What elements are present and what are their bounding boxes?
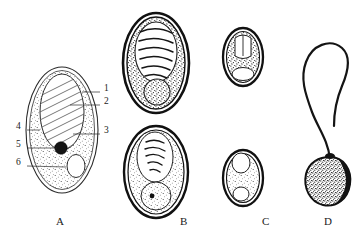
panel-c-ovum-upper (223, 28, 263, 86)
specimen-plate (0, 0, 361, 242)
leader-number-6: 6 (16, 157, 21, 167)
flagellum (303, 43, 348, 159)
panel-c-ovum-lower (223, 150, 263, 206)
panel-letter-d: D (324, 215, 332, 227)
panel-letter-c: C (262, 215, 270, 227)
panel-b-ovum-lower (124, 126, 188, 218)
leader-number-1: 1 (104, 83, 109, 93)
leader-number-2: 2 (104, 96, 109, 106)
panel-c-drawing (223, 28, 263, 206)
leader-number-5: 5 (16, 139, 21, 149)
leader-number-3: 3 (104, 125, 109, 135)
panel-b-drawing (123, 13, 189, 218)
panel-b-ovum-upper (123, 13, 189, 113)
ovum-clear-vacuole (67, 155, 85, 178)
panel-d-body (305, 153, 350, 206)
panel-d-drawing (303, 43, 350, 205)
leader-number-4: 4 (16, 121, 21, 131)
panel-letter-a: A (56, 215, 64, 227)
panel-letter-b: B (180, 215, 188, 227)
